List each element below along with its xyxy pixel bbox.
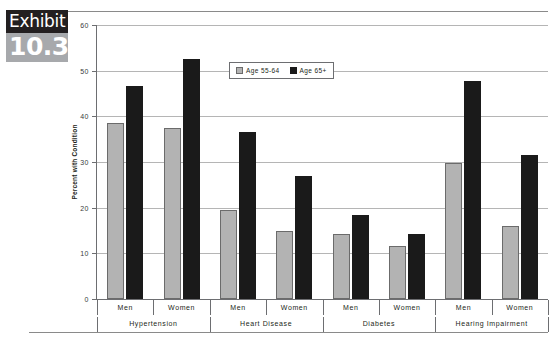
bar: [276, 231, 293, 299]
y-tick-mark: [92, 116, 96, 117]
chart-legend: Age 55-64 Age 65+: [229, 62, 334, 79]
y-tick-label: 40: [80, 113, 89, 120]
x-axis-group-label: Hypertension: [97, 320, 210, 327]
y-tick-label: 30: [80, 159, 89, 166]
x-axis-subgroup-label: Men: [323, 304, 379, 311]
x-axis-separator-tick: [323, 300, 324, 315]
bar: [126, 86, 143, 299]
y-tick-mark: [92, 162, 96, 163]
x-axis-group-separator-tick: [548, 317, 549, 332]
x-axis-group-separator-tick: [210, 317, 211, 332]
exhibit-figure: Exhibit 10.3 Percent with Condition 0102…: [0, 0, 551, 349]
bar: [239, 132, 256, 299]
x-axis-separator-tick: [492, 300, 493, 315]
x-axis-subgroup-label: Women: [153, 304, 209, 311]
x-axis-separator-tick: [379, 300, 380, 315]
y-tick-mark: [92, 25, 96, 26]
x-axis-subgroup-label: Women: [379, 304, 435, 311]
x-axis-separator-tick: [266, 300, 267, 315]
bar: [107, 123, 124, 299]
legend-swatch-age-65: [290, 67, 297, 74]
x-axis-subgroup-label: Men: [97, 304, 153, 311]
x-axis-group-label: Heart Disease: [210, 320, 323, 327]
y-tick-mark: [92, 299, 96, 300]
y-tick-label: 60: [80, 22, 89, 29]
gridline: [97, 25, 548, 26]
bar: [333, 234, 350, 299]
exhibit-number: 10.3: [6, 33, 68, 60]
x-axis-separator-tick: [97, 300, 98, 315]
x-axis-subgroup-label: Men: [435, 304, 491, 311]
y-tick-mark: [92, 208, 96, 209]
x-axis-group-label: Diabetes: [323, 320, 436, 327]
exhibit-badge: Exhibit 10.3: [6, 10, 68, 62]
x-axis-group-separator-tick: [97, 317, 98, 332]
bar: [521, 155, 538, 299]
x-axis-group-separator-tick: [435, 317, 436, 332]
exhibit-label: Exhibit: [6, 10, 68, 33]
x-axis-separator-tick: [435, 300, 436, 315]
bar: [352, 215, 369, 299]
bar: [502, 226, 519, 299]
bar: [295, 176, 312, 299]
x-axis-separator-tick: [548, 300, 549, 315]
x-axis-separator-tick: [210, 300, 211, 315]
y-tick-label: 10: [80, 250, 89, 257]
bar: [164, 128, 181, 299]
bar: [464, 81, 481, 299]
y-axis-label: Percent with Condition: [71, 124, 78, 199]
legend-swatch-age-55-64: [236, 67, 243, 74]
x-axis-subgroup-label: Women: [266, 304, 322, 311]
legend-label-age-55-64: Age 55-64: [246, 67, 280, 74]
legend-label-age-65: Age 65+: [300, 67, 327, 74]
x-axis-group-label: Hearing Impairment: [435, 320, 548, 327]
x-axis-group-separator-tick: [323, 317, 324, 332]
exhibit-badge-number-band: 10.3: [6, 33, 68, 62]
x-axis-separator-tick: [153, 300, 154, 315]
bar: [408, 234, 425, 299]
exhibit-badge-title-band: Exhibit: [6, 10, 68, 33]
y-tick-label: 20: [80, 204, 89, 211]
x-axis-subgroup-label: Women: [492, 304, 548, 311]
y-tick-label: 50: [80, 67, 89, 74]
frame-rule-top: [29, 11, 548, 12]
x-axis-subgroup-label: Men: [210, 304, 266, 311]
bar: [445, 163, 462, 299]
bar: [220, 210, 237, 299]
bar: [183, 59, 200, 299]
x-axis-group-row: HypertensionHeart DiseaseDiabetesHearing…: [97, 317, 548, 334]
y-tick-mark: [92, 71, 96, 72]
y-tick-label: 0: [85, 296, 89, 303]
bar: [389, 246, 406, 299]
y-tick-mark: [92, 253, 96, 254]
x-axis-subgroup-row: MenWomenMenWomenMenWomenMenWomen: [97, 300, 548, 317]
